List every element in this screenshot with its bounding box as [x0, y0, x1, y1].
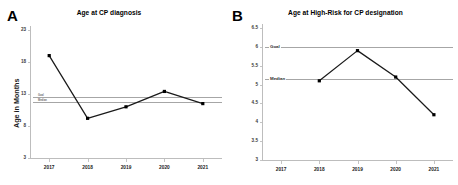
data-point-marker: [394, 75, 397, 78]
data-point-marker: [201, 102, 204, 105]
data-point-marker: [356, 49, 359, 52]
panel-b-plot: 33.544.555.566.5 20172018201920202021 Go…: [229, 0, 458, 185]
x-axis-line: [30, 158, 222, 159]
panel-a-plot: Age in Months 38131823 20172018201920202…: [0, 0, 229, 185]
figure-two-panel-line-charts: A Age at CP diagnosis Age in Months 3813…: [0, 0, 458, 185]
data-point-marker: [432, 113, 435, 116]
data-point-marker: [124, 105, 127, 108]
panel-a: A Age at CP diagnosis Age in Months 3813…: [0, 0, 229, 185]
panel-b: B Age at High-Risk for CP designation 33…: [229, 0, 458, 185]
y-axis-line: [262, 24, 263, 160]
panel-b-series: [229, 0, 458, 185]
x-axis-line: [262, 160, 453, 161]
data-point-marker: [86, 117, 89, 120]
data-point-marker: [163, 90, 166, 93]
y-axis-line: [30, 26, 31, 158]
series-line: [319, 51, 434, 115]
data-point-marker: [318, 79, 321, 82]
data-point-marker: [48, 54, 51, 57]
series-line: [49, 56, 203, 119]
